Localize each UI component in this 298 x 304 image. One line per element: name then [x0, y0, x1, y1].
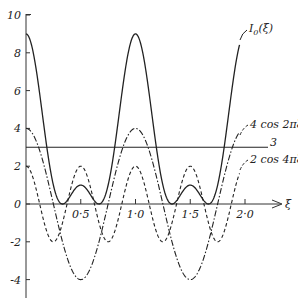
y-tick-label: 4: [13, 122, 21, 135]
x-tick-label: 0·5: [72, 208, 90, 221]
x-tick-label: 1·0: [127, 208, 145, 221]
cos4-label: 2 cos 4πξ: [249, 153, 298, 166]
cos4-leader: [240, 160, 248, 170]
xi-axis-label: ξ: [285, 198, 292, 211]
y-tick-label: 6: [14, 85, 21, 98]
x-tick-label: 2·0: [235, 208, 254, 221]
cos2-leader: [240, 125, 248, 135]
i0-label: I0(ξ): [248, 22, 273, 37]
i0-leader: [240, 30, 247, 40]
y-tick-label: 0: [14, 198, 21, 211]
y-tick-label: -2: [10, 236, 21, 249]
x-tick-label: 1·5: [182, 208, 200, 221]
x-ticks: 0·51·01·52·0: [72, 199, 254, 221]
cos2-label: 4 cos 2πξ: [249, 118, 298, 131]
curve-i0: [26, 34, 240, 204]
y-tick-label: -4: [10, 274, 21, 287]
chart: 1086420-2-4 0·51·01·52·0 I0(ξ) 4 cos 2πξ…: [0, 0, 298, 304]
y-tick-label: 2: [13, 160, 21, 173]
three-label: 3: [270, 136, 277, 149]
y-tick-label: 10: [7, 9, 21, 22]
y-tick-label: 8: [14, 47, 21, 60]
